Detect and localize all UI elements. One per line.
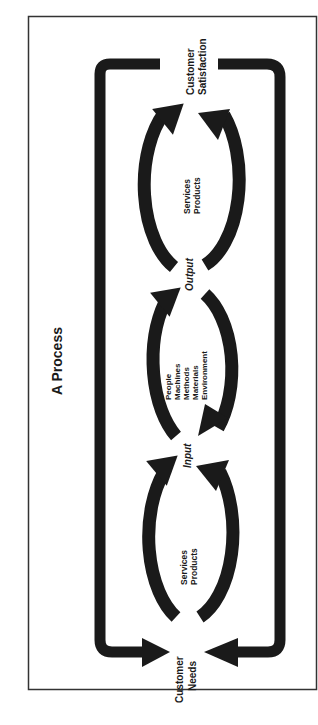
customer-needs-line1: Customer [174, 656, 185, 703]
customer-satisfaction-line1: Customer [185, 48, 196, 95]
diagram-title: A Process [49, 327, 65, 395]
customers-content-2: Products [192, 177, 202, 214]
suppliers-arc-left [149, 472, 176, 617]
suppliers-arc-label-right: Suppliers [240, 559, 250, 600]
process-content-2: Machines [173, 363, 182, 400]
process-content-3: Methods [182, 367, 191, 400]
process-arc-label-right: Process [243, 370, 253, 405]
customer-needs-line2: Needs [187, 661, 198, 691]
arrowhead-needs-right [204, 638, 238, 667]
customers-arc-label-left: Customers [125, 178, 135, 225]
process-content-1: People [164, 373, 173, 400]
suppliers-content-1: Services [179, 550, 189, 585]
suppliers-arc-label-left: Suppliers [122, 559, 132, 600]
process-content-5: Environment [200, 351, 209, 400]
customers-arc-label-right: Customers [244, 178, 254, 225]
process-arc-label-left: Process [126, 370, 136, 405]
customers-arc-right [205, 115, 239, 265]
arrowhead-needs-left [142, 638, 170, 667]
process-diagram: A Process Customer Satisfaction Customer… [0, 0, 318, 725]
suppliers-arc-right [200, 472, 233, 617]
customers-content-1: Services [182, 179, 192, 214]
process-content-4: Materials [191, 365, 200, 400]
customers-arc-left [144, 113, 174, 267]
input-label: Input [182, 443, 193, 468]
suppliers-content-2: Products [189, 548, 199, 585]
customer-satisfaction-line2: Satisfaction [197, 38, 208, 95]
output-label: Output [184, 258, 195, 291]
